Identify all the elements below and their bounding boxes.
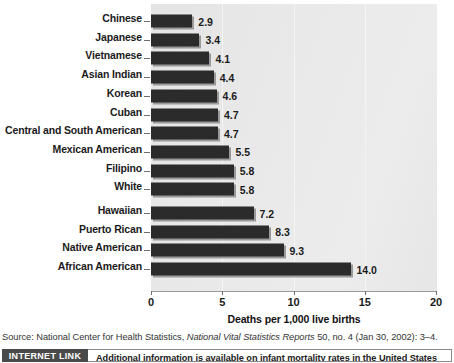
bar-container: 14.0	[151, 263, 351, 276]
bar: 3.4	[151, 33, 199, 46]
bar: 7.2	[151, 207, 254, 220]
internet-link-text[interactable]: Additional information is available on i…	[96, 353, 437, 362]
x-tick-label: 0	[148, 296, 154, 308]
category-label: Native American	[0, 241, 142, 253]
x-tick-label: 15	[359, 296, 371, 308]
x-tick-mark	[365, 291, 366, 295]
bar: 2.9	[151, 15, 192, 28]
x-tick-label: 10	[287, 296, 299, 308]
category-label: Chinese	[0, 12, 142, 24]
source-note: Source: National Center for Health Stati…	[2, 332, 438, 342]
bar: 4.4	[151, 71, 214, 84]
category-label: Korean	[0, 87, 142, 99]
table-row: Central and South American4.7	[0, 124, 454, 142]
category-label: Puerto Rican	[0, 223, 142, 235]
bar-value-label: 4.4	[220, 71, 235, 83]
bar-container: 8.3	[151, 225, 269, 238]
x-tick-label: 5	[219, 296, 225, 308]
bar-container: 5.8	[151, 183, 234, 196]
source-prefix: Source: National Center for Health Stati…	[2, 332, 187, 342]
bar: 9.3	[151, 244, 284, 257]
bar-value-label: 4.1	[215, 52, 230, 64]
category-tick	[144, 40, 150, 41]
bar: 4.7	[151, 108, 218, 121]
bar: 8.3	[151, 225, 269, 238]
x-tick-label: 20	[430, 296, 442, 308]
bar-value-label: 8.3	[275, 226, 290, 238]
bar: 5.5	[151, 145, 229, 158]
category-label: Hawaiian	[0, 204, 142, 216]
table-row: Japanese3.4	[0, 31, 454, 49]
category-tick	[144, 21, 150, 22]
category-tick	[144, 189, 150, 190]
bar-container: 5.5	[151, 145, 229, 158]
infant-mortality-bar-chart: Chinese2.9Japanese3.4Vietnamese4.1Asian …	[0, 0, 454, 363]
table-row: Filipino5.8	[0, 162, 454, 180]
table-row: White5.8	[0, 180, 454, 198]
category-label: Asian Indian	[0, 68, 142, 80]
table-row: African American14.0	[0, 260, 454, 278]
internet-link-badge: INTERNET LINK	[2, 349, 88, 362]
table-row: Chinese2.9	[0, 12, 454, 30]
category-tick	[144, 115, 150, 116]
category-label: Vietnamese	[0, 49, 142, 61]
category-tick	[144, 58, 150, 59]
bar-value-label: 2.9	[198, 15, 213, 27]
table-row: Cuban4.7	[0, 106, 454, 124]
category-tick	[144, 213, 150, 214]
category-tick	[144, 250, 150, 251]
category-tick	[144, 133, 150, 134]
table-row: Native American9.3	[0, 241, 454, 259]
bar-container: 4.7	[151, 127, 218, 140]
bar-value-label: 4.7	[224, 109, 239, 121]
source-suffix: 50, no. 4 (Jan 30, 2002): 3–4.	[315, 332, 438, 342]
source-italic-title: National Vital Statistics Reports	[187, 332, 315, 342]
bar-container: 4.6	[151, 89, 217, 102]
bar-container: 2.9	[151, 15, 192, 28]
bar-container: 4.4	[151, 71, 214, 84]
bar-container: 7.2	[151, 207, 254, 220]
bar: 4.1	[151, 52, 209, 65]
bar-container: 5.8	[151, 164, 234, 177]
bar-value-label: 5.5	[235, 146, 250, 158]
category-tick	[144, 269, 150, 270]
category-tick	[144, 232, 150, 233]
table-row: Mexican American5.5	[0, 143, 454, 161]
category-tick	[144, 171, 150, 172]
bar-container: 4.1	[151, 52, 209, 65]
category-label: Mexican American	[0, 143, 142, 155]
table-row: Korean4.6	[0, 87, 454, 105]
bar-value-label: 5.8	[240, 165, 255, 177]
x-tick-mark	[222, 291, 223, 295]
bar: 4.7	[151, 127, 218, 140]
table-row: Asian Indian4.4	[0, 68, 454, 86]
category-label: Filipino	[0, 162, 142, 174]
category-label: Cuban	[0, 106, 142, 118]
bar-value-label: 4.7	[224, 127, 239, 139]
x-axis-label: Deaths per 1,000 live births	[151, 313, 437, 325]
category-label: African American	[0, 260, 142, 272]
bar: 14.0	[151, 263, 351, 276]
internet-link-strip: INTERNET LINK Additional information is …	[0, 349, 454, 363]
bar-value-label: 9.3	[290, 244, 305, 256]
table-row: Vietnamese4.1	[0, 49, 454, 67]
bar: 5.8	[151, 164, 234, 177]
bar-value-label: 7.2	[260, 207, 275, 219]
table-row: Puerto Rican8.3	[0, 223, 454, 241]
bar: 5.8	[151, 183, 234, 196]
category-tick	[144, 152, 150, 153]
table-row: Hawaiian7.2	[0, 204, 454, 222]
bar-container: 4.7	[151, 108, 218, 121]
category-tick	[144, 96, 150, 97]
category-label: Japanese	[0, 31, 142, 43]
bar-value-label: 14.0	[357, 263, 377, 275]
x-tick-mark	[294, 291, 295, 295]
category-tick	[144, 77, 150, 78]
bar-container: 9.3	[151, 244, 284, 257]
x-tick-mark	[151, 291, 152, 295]
category-label: Central and South American	[0, 124, 142, 136]
bar-value-label: 3.4	[205, 34, 220, 46]
internet-link-box[interactable]: Additional information is available on i…	[88, 349, 452, 362]
x-tick-mark	[436, 291, 437, 295]
bar: 4.6	[151, 89, 217, 102]
